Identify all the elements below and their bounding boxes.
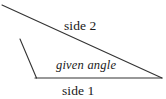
- side-1-label: side 1: [62, 84, 94, 98]
- triangle-diagram: side 2 given angle side 1: [0, 0, 166, 99]
- given-angle-label: given angle: [56, 59, 116, 72]
- angle-left-ray-line: [20, 39, 37, 78]
- side-2-label: side 2: [64, 19, 96, 33]
